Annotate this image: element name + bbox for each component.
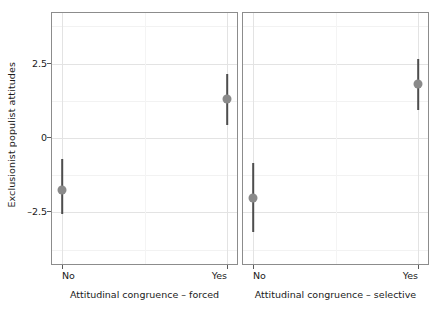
gridline-vertical-minor: [145, 13, 146, 264]
gridline-vertical-major: [62, 13, 63, 264]
x-tick-label: No: [253, 270, 266, 281]
x-tick-label: Yes: [212, 270, 227, 281]
y-tick-mark: [47, 63, 51, 64]
panel-forced: [51, 12, 238, 265]
gridline-vertical-minor: [336, 13, 337, 264]
x-tick-label: No: [62, 270, 75, 281]
x-tick-mark: [62, 265, 63, 269]
point-estimate-marker: [58, 186, 67, 195]
x-tick-mark: [418, 265, 419, 269]
x-tick-mark: [227, 265, 228, 269]
y-axis-tick-labels: 2.50–2.5: [22, 0, 47, 314]
y-axis-title-text: Exclusionist populist attitudes: [6, 62, 17, 208]
y-tick-mark: [47, 211, 51, 212]
x-tick-label: Yes: [403, 270, 418, 281]
chart-figure: Exclusionist populist attitudes 2.50–2.5…: [0, 0, 442, 314]
point-estimate-marker: [223, 95, 232, 104]
x-axis-title: Attitudinal congruence – selective: [255, 289, 416, 300]
gridline-vertical-major: [227, 13, 228, 264]
x-tick-mark: [253, 265, 254, 269]
y-axis-title: Exclusionist populist attitudes: [0, 0, 22, 270]
panel-selective: [242, 12, 429, 265]
point-estimate-marker: [249, 193, 258, 202]
panel-container: [51, 12, 429, 265]
y-tick-label: 2.5: [32, 57, 47, 68]
point-estimate-marker: [414, 80, 423, 89]
y-tick-label: –2.5: [27, 206, 47, 217]
x-axis-title: Attitudinal congruence – forced: [70, 289, 219, 300]
y-tick-mark: [47, 137, 51, 138]
gridline-vertical-major: [418, 13, 419, 264]
